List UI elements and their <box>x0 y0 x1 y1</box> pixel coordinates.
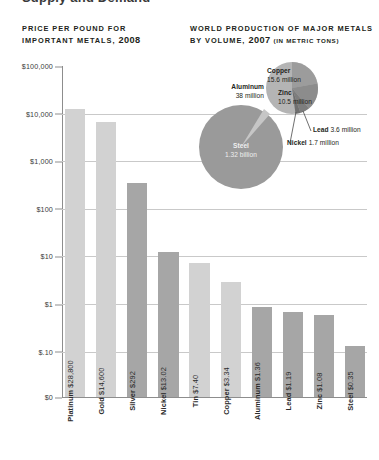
bar-gold[interactable]: Gold $14,600 <box>96 122 116 397</box>
bar-label: Zinc $1.08 <box>315 373 324 410</box>
y-tick-mark <box>55 209 62 210</box>
right-chart-heading: WORLD PRODUCTION OF MAJOR METALS BY VOLU… <box>190 23 379 46</box>
bar-lead[interactable]: Lead $1.19 <box>283 312 303 397</box>
right-heading-line2: BY VOLUME, <box>190 36 245 45</box>
y-tick-label: $1 <box>45 300 62 309</box>
y-tick-mark <box>55 397 62 398</box>
left-heading-line2: IMPORTANT METALS, <box>22 36 115 45</box>
lead-label-name: Lead <box>313 126 329 133</box>
y-tick-mark <box>55 256 62 257</box>
y-tick-mark <box>55 114 62 115</box>
bar-zinc[interactable]: Zinc $1.08 <box>314 315 334 397</box>
aluminum-label-name: Aluminum <box>231 83 264 90</box>
y-tick-label: $10,000 <box>26 109 62 118</box>
y-tick-label: $0 <box>45 393 62 402</box>
y-tick-label: $100 <box>36 204 62 213</box>
zinc-label: Zinc 10.5 million <box>278 89 312 106</box>
y-tick-label: $.10 <box>38 347 62 356</box>
nickel-label-name: Nickel <box>287 139 307 146</box>
copper-label-name: Copper <box>267 67 290 74</box>
lead-label-value: 3.6 million <box>330 126 360 133</box>
zinc-label-name: Zinc <box>278 89 292 96</box>
right-heading-parenthetical: (IN METRIC TONS) <box>273 37 339 44</box>
bar-nickel[interactable]: Nickel $13.02 <box>158 252 178 397</box>
left-heading-year: 2008 <box>118 35 140 45</box>
bar-platinum[interactable]: Platinum $28,800 <box>65 109 85 397</box>
nickel-label-value: 1.7 million <box>309 139 339 146</box>
right-heading-year: 2007 <box>248 35 270 45</box>
steel-label-name: Steel <box>233 142 249 149</box>
y-tick-label: $10 <box>41 252 62 261</box>
aluminum-label-value: 38 million <box>236 92 264 99</box>
bar-aluminum[interactable]: Aluminum $1.36 <box>252 307 272 397</box>
y-tick-mark <box>55 304 62 305</box>
bar-label: Copper $3.34 <box>222 367 231 415</box>
steel-label: Steel 1.32 billion <box>215 142 267 159</box>
bar-label: Silver $292 <box>128 371 137 411</box>
bar-copper[interactable]: Copper $3.34 <box>221 282 241 397</box>
zinc-label-value: 10.5 million <box>278 98 312 105</box>
aluminum-label: Aluminum 38 million <box>198 83 264 100</box>
bar-steel[interactable]: Steel $0.35 <box>345 346 365 397</box>
y-tick-label: $100,000 <box>22 62 62 71</box>
bar-label: Gold $14,600 <box>97 368 106 415</box>
bar-label: Tin $7.40 <box>191 375 200 407</box>
y-tick-mark <box>55 66 62 67</box>
bar-label: Aluminum $1.36 <box>253 362 262 420</box>
copper-label-value: 15.6 million <box>267 76 301 83</box>
right-heading-line1: WORLD PRODUCTION OF MAJOR METALS <box>190 24 373 33</box>
bar-tin[interactable]: Tin $7.40 <box>189 263 209 397</box>
bar-label: Platinum $28,800 <box>66 360 75 422</box>
y-tick-label: $1,000 <box>30 157 62 166</box>
copper-label: Copper 15.6 million <box>267 67 301 84</box>
world-production-circle-chart: Aluminum 38 million Copper 15.6 million … <box>190 55 379 205</box>
infographic-page: Supply and Demand PRICE PER POUND FOR IM… <box>0 0 379 460</box>
y-axis-line <box>62 66 63 398</box>
left-chart-heading: PRICE PER POUND FOR IMPORTANT METALS, 20… <box>22 23 182 46</box>
steel-label-value: 1.32 billion <box>225 151 257 158</box>
bar-label: Lead $1.19 <box>284 372 293 411</box>
y-tick-mark <box>55 161 62 162</box>
bar-label: Steel $0.35 <box>346 371 355 410</box>
page-title: Supply and Demand <box>22 0 150 5</box>
bar-silver[interactable]: Silver $292 <box>127 183 147 397</box>
left-heading-line1: PRICE PER POUND FOR <box>22 24 126 33</box>
lead-leader-line <box>303 111 311 131</box>
bar-label: Nickel $13.02 <box>159 367 168 415</box>
lead-label: Lead 3.6 million <box>313 126 361 135</box>
nickel-label: Nickel 1.7 million <box>287 139 339 148</box>
y-tick-mark <box>55 352 62 353</box>
